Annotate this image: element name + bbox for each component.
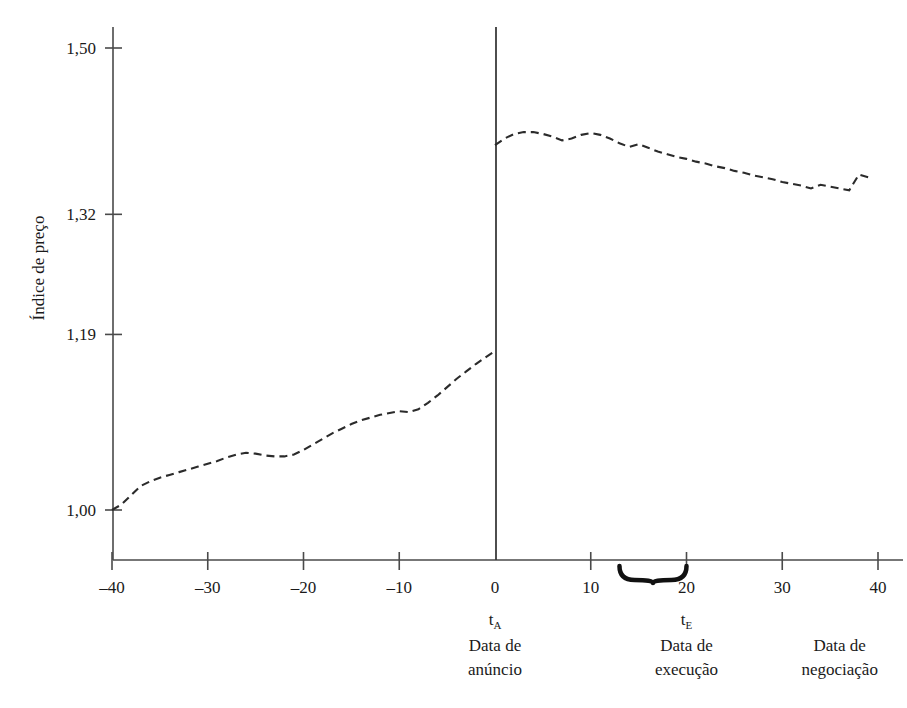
x-tick-label-3: –10 <box>386 578 413 597</box>
x-axis-ticks: –40–30–20–10010203040 <box>98 552 886 597</box>
y-tick-label-2: 1,32 <box>66 205 96 224</box>
annotation-subscript-announcement: A <box>493 619 501 631</box>
annotation-symbol-announcement: tA <box>489 610 502 631</box>
x-tick-label-8: 40 <box>870 578 887 597</box>
axis-annotations: tAData deanúnciotEData deexecuçãoData de… <box>468 610 878 679</box>
chart-canvas: 1,001,191,321,50 –40–30–20–10010203040 Í… <box>0 0 907 708</box>
annotation-line1-trading: Data de <box>814 636 866 655</box>
annotation-line1-announcement: Data de <box>469 636 521 655</box>
annotation-line1-execution: Data de <box>660 636 712 655</box>
annotation-line2-execution: execução <box>655 660 718 679</box>
annotation-subscript-execution: E <box>686 619 693 631</box>
y-axis-title: Índice de preço <box>29 216 48 321</box>
execution-window-brace <box>619 566 686 583</box>
y-tick-label-1: 1,19 <box>66 325 96 344</box>
price-index-chart: 1,001,191,321,50 –40–30–20–10010203040 Í… <box>0 0 907 708</box>
x-tick-label-1: –30 <box>194 578 221 597</box>
x-tick-label-0: –40 <box>98 578 125 597</box>
annotation-line2-announcement: anúncio <box>468 660 522 679</box>
x-tick-label-5: 10 <box>582 578 599 597</box>
y-tick-label-0: 1,00 <box>66 501 96 520</box>
x-tick-label-4: 0 <box>491 578 500 597</box>
y-tick-label-3: 1,50 <box>66 39 96 58</box>
annotation-symbol-execution: tE <box>681 610 693 631</box>
series-line-pre-announcement <box>112 351 495 510</box>
axes-group <box>113 27 903 560</box>
x-tick-label-2: –20 <box>290 578 317 597</box>
data-series-group <box>112 132 868 510</box>
x-tick-label-6: 20 <box>678 578 695 597</box>
series-line-post-announcement <box>495 132 868 190</box>
annotation-line2-trading: negociação <box>801 660 877 679</box>
x-tick-label-7: 30 <box>774 578 791 597</box>
